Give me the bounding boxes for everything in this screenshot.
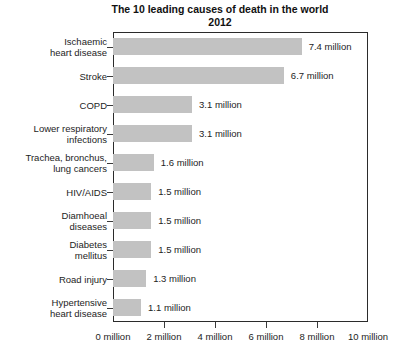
bar [113, 299, 141, 316]
bar [113, 38, 302, 55]
bar-row: 6.7 million [113, 61, 368, 90]
bar-row: 1.3 million [113, 264, 368, 293]
y-axis-tick [107, 279, 113, 280]
y-axis-label: Hypertensive heart disease [0, 297, 107, 319]
y-axis-tick [107, 308, 113, 309]
bar-row: 7.4 million [113, 32, 368, 61]
y-axis-label: Stroke [0, 70, 107, 81]
x-axis-label: 4 million [198, 331, 233, 343]
bar-row: 3.1 million [113, 90, 368, 119]
bar [113, 212, 151, 229]
bar-row: 1.5 million [113, 177, 368, 206]
bar-value-label: 1.1 million [148, 302, 191, 313]
x-axis-label: 0 million [96, 331, 131, 343]
bar-row: 3.1 million [113, 119, 368, 148]
bar [113, 96, 192, 113]
bar-value-label: 1.5 million [158, 244, 201, 255]
bar-value-label: 1.3 million [153, 273, 196, 284]
y-axis-tick [107, 221, 113, 222]
bar-value-label: 1.5 million [158, 186, 201, 197]
y-axis-label: HIV/AIDS [0, 186, 107, 197]
y-axis-label: Lower respiratory infections [0, 123, 107, 145]
y-axis-category-labels: Ischaemic heart diseaseStrokeCOPDLower r… [0, 32, 107, 322]
y-axis-label: Trachea, bronchus, lung cancers [0, 152, 107, 174]
y-axis-label: COPD [0, 99, 107, 110]
x-axis-label: 10 million [348, 331, 388, 343]
y-axis-tick [107, 76, 113, 77]
bar [113, 241, 151, 258]
bar [113, 125, 192, 142]
bar-series: 7.4 million6.7 million3.1 million3.1 mil… [113, 32, 368, 322]
chart-figure: The 10 leading causes of death in the wo… [0, 0, 399, 354]
bar-value-label: 7.4 million [309, 41, 352, 52]
y-axis-tick [107, 105, 113, 106]
y-axis-label: Road injury [0, 273, 107, 284]
bar-value-label: 1.5 million [158, 215, 201, 226]
y-axis-tick [107, 163, 113, 164]
y-axis-tick [107, 250, 113, 251]
x-axis-tick [164, 322, 165, 328]
chart-title: The 10 leading causes of death in the wo… [60, 3, 380, 29]
y-axis-label: Diamhoeal diseases [0, 210, 107, 232]
bar-row: 1.1 million [113, 293, 368, 322]
bar-value-label: 3.1 million [199, 128, 242, 139]
x-axis-label: 6 million [249, 331, 284, 343]
y-axis-tick [107, 47, 113, 48]
bar-row: 1.5 million [113, 235, 368, 264]
x-axis-tick [266, 322, 267, 328]
bar [113, 67, 284, 84]
y-axis-tick [107, 134, 113, 135]
bar-value-label: 1.6 million [161, 157, 204, 168]
x-axis-label: 8 million [300, 331, 335, 343]
bar-row: 1.5 million [113, 206, 368, 235]
x-axis-label: 2 million [147, 331, 182, 343]
x-axis-tick [317, 322, 318, 328]
y-axis-label: Ischaemic heart disease [0, 36, 107, 58]
y-axis-label: Diabetes mellitus [0, 239, 107, 261]
bar-row: 1.6 million [113, 148, 368, 177]
x-axis-tick [215, 322, 216, 328]
bar-value-label: 3.1 million [199, 99, 242, 110]
bar [113, 154, 154, 171]
bar [113, 183, 151, 200]
bar-value-label: 6.7 million [291, 70, 334, 81]
bar [113, 270, 146, 287]
y-axis-tick [107, 192, 113, 193]
